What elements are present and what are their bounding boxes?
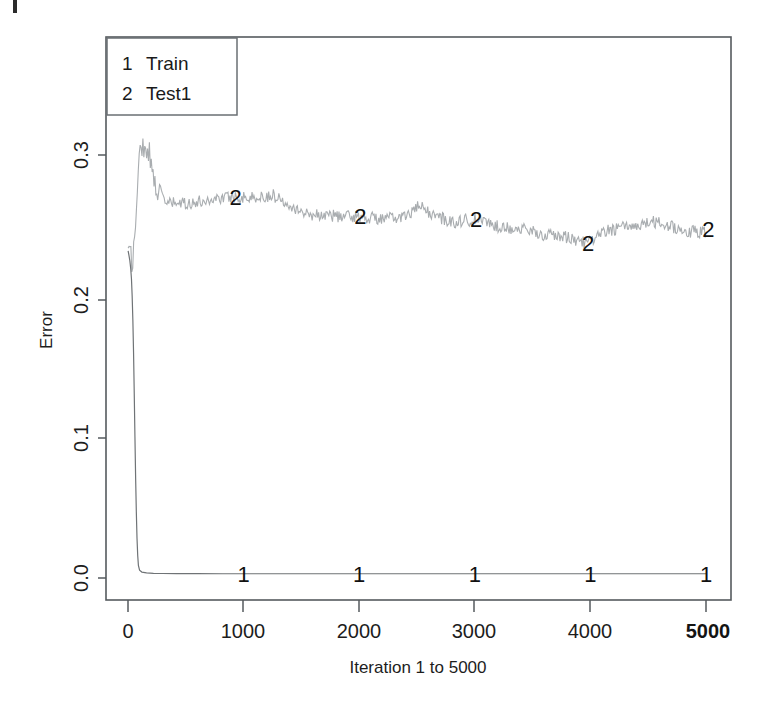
legend-label-train: Train <box>146 53 189 74</box>
scan-edge-mark <box>13 0 17 13</box>
x-tick-label-3000: 3000 <box>452 620 497 642</box>
error-curve-figure: 0.0 0.1 0.2 0.3 Error 0 1000 2000 3000 4… <box>0 0 767 701</box>
series-markers-test1: 22222 <box>229 185 714 257</box>
marker-test1-1: 2 <box>229 185 241 210</box>
marker-test1-2: 2 <box>354 204 366 229</box>
legend-label-test1: Test1 <box>146 83 191 104</box>
marker-train-4: 1 <box>584 562 596 587</box>
x-tick-label-1000: 1000 <box>221 620 266 642</box>
legend-symbol-test1: 2 <box>122 83 133 104</box>
legend-symbol-train: 1 <box>122 53 133 74</box>
chart-canvas: 0.0 0.1 0.2 0.3 Error 0 1000 2000 3000 4… <box>0 0 767 701</box>
x-axis-ticks <box>128 600 706 612</box>
x-tick-label-5000: 5000 <box>686 620 731 642</box>
marker-train-1: 1 <box>237 562 249 587</box>
marker-test1-4: 2 <box>582 231 594 256</box>
y-tick-label-3: 0.3 <box>70 141 92 169</box>
marker-test1-3: 2 <box>470 207 482 232</box>
y-tick-label-2: 0.2 <box>70 286 92 314</box>
series-line-train <box>128 251 706 574</box>
series-line-test1 <box>128 139 705 272</box>
series-layer <box>128 139 706 574</box>
y-tick-label-1: 0.1 <box>70 424 92 452</box>
y-axis-ticks <box>98 155 106 578</box>
marker-train-5: 1 <box>700 562 712 587</box>
marker-test1-5: 2 <box>702 217 714 242</box>
x-axis-title: Iteration 1 to 5000 <box>349 658 486 677</box>
y-axis-tick-labels: 0.0 0.1 0.2 0.3 <box>70 141 92 592</box>
y-tick-label-0: 0.0 <box>70 564 92 592</box>
x-tick-label-2000: 2000 <box>337 620 382 642</box>
marker-train-3: 1 <box>469 562 481 587</box>
x-tick-label-0: 0 <box>122 620 133 642</box>
legend: 1 Train 2 Test1 <box>107 38 237 115</box>
plot-frame <box>106 37 731 600</box>
x-axis-tick-labels: 0 1000 2000 3000 4000 5000 <box>122 620 730 642</box>
y-axis-title: Error <box>37 311 56 349</box>
marker-train-2: 1 <box>353 562 365 587</box>
x-tick-label-4000: 4000 <box>568 620 613 642</box>
